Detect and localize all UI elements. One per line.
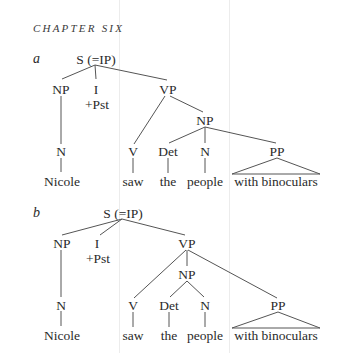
- node-pp: PP: [270, 298, 285, 313]
- node-i-feature: +Pst: [86, 251, 110, 266]
- node-np: NP: [53, 236, 70, 251]
- word-people: people: [187, 328, 223, 343]
- node-n: N: [56, 298, 66, 313]
- word-with-binoculars: with binoculars: [234, 328, 318, 343]
- node-n-object: N: [200, 298, 210, 313]
- node-v: V: [128, 298, 138, 313]
- node-i: I: [95, 236, 100, 251]
- edge-vp-pp: [188, 250, 277, 298]
- edge-s-vp: [122, 219, 185, 235]
- node-det: Det: [159, 298, 179, 313]
- word-nicole: Nicole: [44, 328, 80, 343]
- word-the: the: [161, 328, 178, 343]
- node-np-object: NP: [178, 267, 195, 282]
- word-saw: saw: [123, 328, 144, 343]
- node-vp: VP: [178, 236, 195, 251]
- edge-np-det: [170, 281, 187, 297]
- tree-b: S (=IP) NP I +Pst VP N Nicole NP V Det N…: [0, 0, 337, 353]
- node-s: S (=IP): [103, 206, 143, 221]
- pp-triangle: [232, 312, 320, 328]
- edge-s-i: [100, 219, 122, 235]
- edge-s-np: [62, 219, 122, 235]
- edge-np-n: [187, 281, 204, 297]
